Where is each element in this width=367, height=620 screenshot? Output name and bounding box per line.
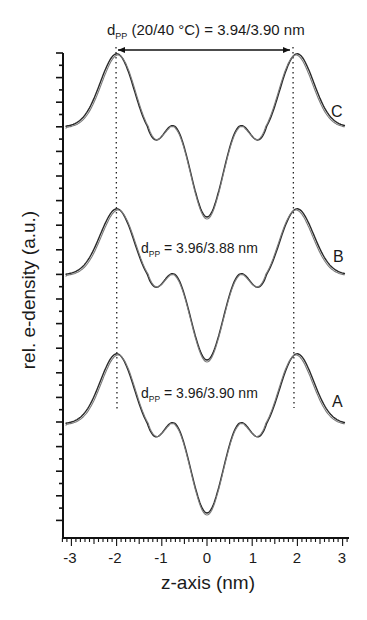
x-tick-label: 0 [203,549,211,566]
curve-trace [66,210,344,362]
annotation-b: dPP = 3.96/3.88 nm [141,240,258,259]
x-tick-label: 3 [338,549,346,566]
curve-c [66,54,344,219]
annotation-a: dPP = 3.96/3.90 nm [141,385,258,404]
x-tick-label: 2 [293,549,301,566]
y-axis [56,53,63,539]
x-axis [62,538,349,546]
curve-trace [66,209,344,360]
x-tick-label: 1 [249,549,257,566]
curve-label-b: B [333,248,344,265]
x-tick-label: -3 [63,549,76,566]
electron-density-chart: dPP (20/40 °C) = 3.94/3.90 nm -3 -2 -1 0… [0,0,367,620]
x-tick-labels: -3 -2 -1 0 1 2 3 [63,549,346,566]
curve-trace [66,354,344,513]
curve-trace [66,55,344,219]
curve-b [66,209,344,362]
curve-a [66,354,344,515]
y-axis-label: rel. e-density (a.u.) [18,211,39,369]
curve-trace [66,54,344,217]
chart-title: dPP (20/40 °C) = 3.94/3.90 nm [107,21,305,41]
x-axis-label: z-axis (nm) [161,572,255,593]
curve-trace [66,355,344,515]
curve-label-a: A [332,393,343,410]
curve-label-c: C [331,103,343,120]
right-peak-reference-line [293,47,294,408]
x-tick-label: -1 [154,549,167,566]
x-tick-label: -2 [108,549,121,566]
